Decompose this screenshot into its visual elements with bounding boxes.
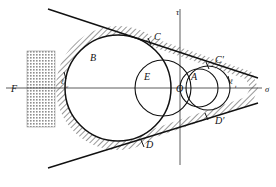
region-F-rectangle bbox=[27, 51, 55, 127]
point-C-prime-label: C′ bbox=[215, 54, 225, 65]
circle-E-label: E bbox=[143, 71, 150, 82]
circle-B-label: B bbox=[90, 52, 96, 63]
tangency-label-left: ℓ bbox=[60, 78, 64, 86]
point-D-label: D bbox=[145, 139, 154, 150]
circle-A-label: A bbox=[190, 71, 198, 82]
tangency-label-right: ℓ bbox=[229, 78, 233, 86]
region-F-label: F bbox=[10, 83, 18, 94]
mohr-circle-figure: σ τ B E A O C C′ D D′ F ℓ c ℓ t bbox=[0, 0, 276, 187]
figure-canvas: σ τ B E A O C C′ D D′ F ℓ c ℓ t bbox=[0, 0, 276, 187]
point-O-label: O bbox=[176, 83, 183, 94]
point-C-label: C bbox=[154, 31, 161, 42]
point-D-prime-label: D′ bbox=[214, 115, 225, 126]
